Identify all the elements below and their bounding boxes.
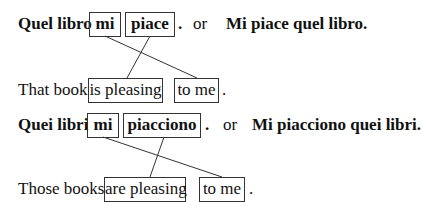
connector-mi-to-me-2 [103,137,222,177]
english-object-box: to me [174,78,219,103]
period: . [178,14,182,34]
clitic-box: mi [89,12,121,37]
alternative-sentence: Mi piacciono quei libri. [252,115,421,135]
english-period: . [222,80,226,100]
italian-subject: Quel libro [18,14,92,34]
or-label: or [223,115,237,135]
english-verb-box: are pleasing [104,177,186,202]
connector-piace-is-pleasing [127,36,150,78]
clitic-box: mi [87,113,119,138]
or-label: or [193,14,207,34]
connector-mi-to-me-1 [105,36,197,78]
english-object-box: to me [199,177,245,202]
italian-subject: Quei libri [18,115,88,135]
english-period: . [249,179,253,199]
english-verb-box: is pleasing [88,78,163,103]
verb-box: piacciono [123,113,201,138]
alternative-sentence: Mi piace quel libro. [226,14,367,34]
english-subject: That book [18,80,87,100]
verb-box: piace [125,12,175,37]
period: . [205,115,209,135]
english-subject: Those books [18,179,104,199]
